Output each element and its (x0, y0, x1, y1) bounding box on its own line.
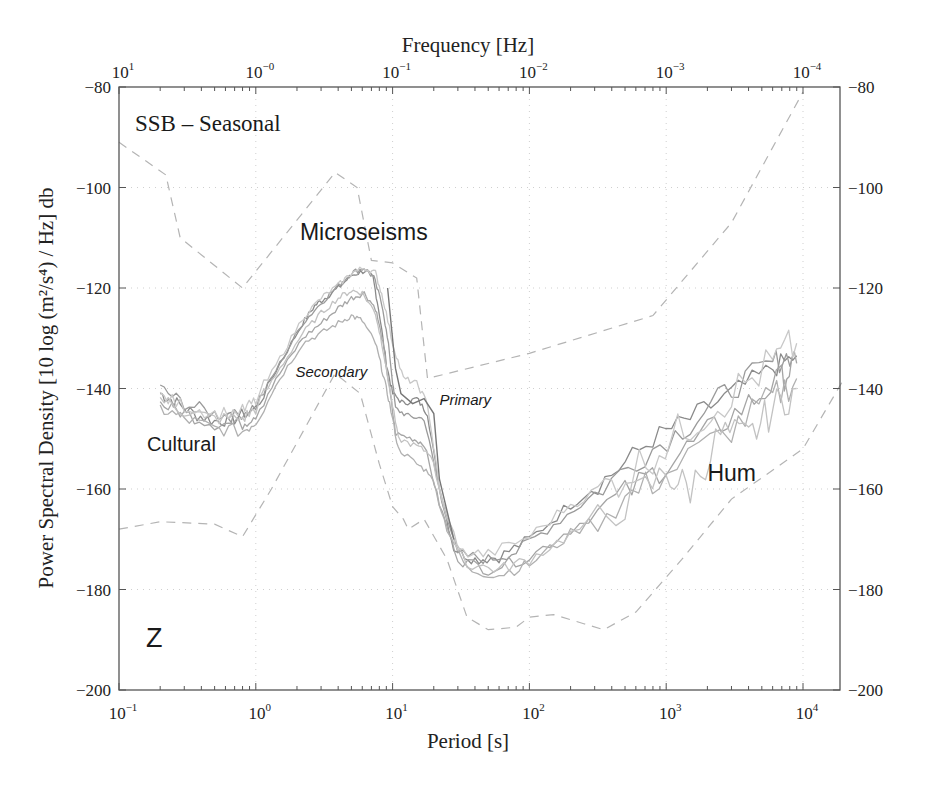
psd-series-line (160, 315, 797, 578)
y-tick-label-left: −100 (76, 179, 111, 198)
y-tick-label-right: −160 (848, 480, 883, 499)
y-tick-label-left: −140 (76, 380, 111, 399)
x2-tick-label: 101 (112, 60, 135, 82)
x-tick-label: 102 (522, 701, 545, 723)
noise-model-curves (119, 92, 844, 630)
annotation-cultural: Cultural (147, 433, 216, 455)
psd-chart: 10−110010110210310410110−010−110−210−310… (0, 0, 936, 785)
y-tick-label-left: −120 (76, 279, 111, 298)
x-tick-label: 104 (796, 701, 819, 723)
chart-title: SSB – Seasonal (135, 111, 281, 136)
y-tick-label-left: −80 (84, 78, 111, 97)
y-tick-label-right: −80 (848, 78, 875, 97)
x2-axis-title: Frequency [Hz] (402, 33, 534, 57)
annotation-primary: Primary (439, 391, 492, 408)
x2-tick-label: 10−3 (656, 60, 685, 82)
y-axis-title: Power Spectral Density [10 log (m²/s⁴) /… (34, 188, 58, 589)
annotation-microseisms: Microseisms (300, 219, 428, 245)
primary-peak-line (388, 288, 454, 539)
annotation-secondary: Secondary (295, 363, 368, 380)
x-axis-title: Period [s] (427, 729, 509, 753)
y-tick-label-right: −100 (848, 179, 883, 198)
annotation-hum: Hum (707, 460, 756, 486)
x-tick-label: 101 (385, 701, 408, 723)
psd-series-line (160, 292, 797, 576)
x2-tick-label: 10−2 (519, 60, 548, 82)
psd-series (160, 267, 797, 577)
y-tick-label-left: −180 (76, 581, 111, 600)
y-tick-label-right: −200 (848, 681, 883, 700)
x-tick-label: 100 (249, 701, 272, 723)
y-tick-label-left: −200 (76, 681, 111, 700)
component-label: Z (146, 623, 163, 653)
psd-series-line (160, 269, 793, 564)
grid-lines (119, 87, 840, 690)
y-tick-label-right: −180 (848, 581, 883, 600)
curve-annotations: MicroseismsSecondaryPrimaryCulturalHum (147, 219, 756, 486)
x2-tick-label: 10−1 (382, 60, 411, 82)
x-tick-label: 103 (659, 701, 682, 723)
y-tick-label-left: −160 (76, 480, 111, 499)
y-tick-label-right: −120 (848, 279, 883, 298)
x-tick-label: 10−1 (109, 701, 138, 723)
x2-tick-label: 10−4 (793, 60, 822, 82)
noise-model-line (119, 373, 844, 629)
x2-tick-label: 10−0 (245, 60, 274, 82)
y-tick-label-right: −140 (848, 380, 883, 399)
